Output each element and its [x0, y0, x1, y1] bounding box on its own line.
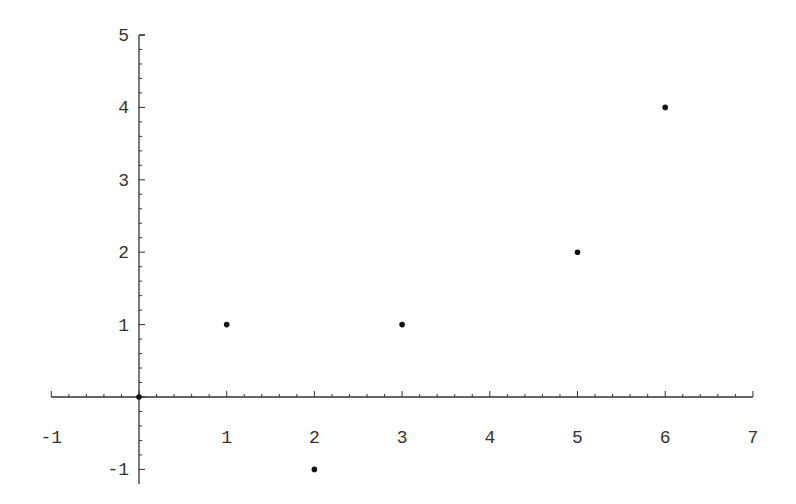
y-axis-tick-labels: -112345	[107, 26, 129, 480]
y-tick-label: 3	[118, 171, 129, 191]
data-points	[136, 105, 668, 473]
axes	[51, 35, 753, 484]
x-tick-label: 5	[572, 428, 583, 448]
x-axis-ticks	[51, 391, 753, 397]
data-point	[399, 322, 405, 328]
x-tick-label: 3	[397, 428, 408, 448]
data-point	[662, 105, 668, 111]
x-tick-label: 2	[309, 428, 320, 448]
x-tick-label: 7	[747, 428, 758, 448]
data-point	[312, 467, 318, 473]
x-tick-label: 1	[221, 428, 232, 448]
x-tick-label: -1	[40, 428, 62, 448]
y-tick-label: 2	[118, 243, 129, 263]
x-tick-label: 4	[484, 428, 495, 448]
data-point	[575, 249, 581, 255]
data-point	[136, 394, 142, 400]
y-tick-label: 1	[118, 316, 129, 336]
scatter-plot: -11234567 -112345	[0, 0, 796, 504]
y-tick-label: 5	[118, 26, 129, 46]
y-axis-ticks	[139, 35, 145, 469]
x-tick-label: 6	[660, 428, 671, 448]
y-tick-label: -1	[107, 460, 129, 480]
y-tick-label: 4	[118, 98, 129, 118]
data-point	[224, 322, 230, 328]
x-axis-tick-labels: -11234567	[40, 428, 758, 448]
